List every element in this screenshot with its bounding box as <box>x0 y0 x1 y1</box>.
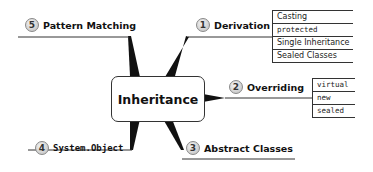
branch-label: Abstract Classes <box>204 143 293 154</box>
branch-label: System.Object <box>53 143 123 153</box>
list-item: Sealed Classes <box>273 49 353 63</box>
number-circle-icon: 4 <box>35 141 49 155</box>
number-circle-icon: 2 <box>229 80 243 94</box>
number-circle-icon: 1 <box>196 18 210 32</box>
branch-abstract-classes: 3 Abstract Classes <box>186 141 293 155</box>
central-label: Inheritance <box>118 92 199 107</box>
derivation-list: Casting protected Single Inheritance Sea… <box>272 10 353 63</box>
branch-overriding: 2 Overriding <box>229 80 304 94</box>
branch-label: Overriding <box>247 82 304 93</box>
number-circle-icon: 3 <box>186 141 200 155</box>
number-circle-icon: 5 <box>25 18 39 32</box>
list-item: new <box>313 91 355 104</box>
list-item: virtual <box>313 78 355 91</box>
central-node: Inheritance <box>111 76 205 122</box>
list-item: Casting <box>273 10 353 23</box>
branch-label: Derivation <box>214 20 270 31</box>
list-item: sealed <box>313 104 355 118</box>
overriding-list: virtual new sealed <box>312 78 355 118</box>
branch-label: Pattern Matching <box>43 20 136 31</box>
list-item: Single Inheritance <box>273 36 353 49</box>
list-item: protected <box>273 23 353 36</box>
branch-derivation: 1 Derivation <box>196 18 270 32</box>
branch-pattern-matching: 5 Pattern Matching <box>25 18 136 32</box>
branch-system-object: 4 System.Object <box>35 141 123 155</box>
